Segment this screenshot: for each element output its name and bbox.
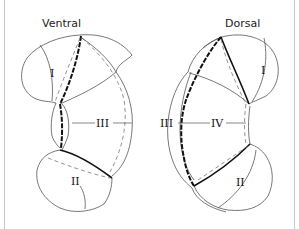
ventral-lateral-border bbox=[112, 72, 132, 176]
ventral-title: Ventral bbox=[42, 17, 81, 30]
ventral-upper-ridge bbox=[60, 72, 116, 104]
ventral-view: Ventral I II bbox=[22, 17, 133, 211]
ventral-label-III: III bbox=[96, 117, 109, 130]
ventral-label-I: I bbox=[50, 67, 54, 80]
ventral-upper-bold-dash bbox=[60, 36, 81, 104]
ventral-lateral-dashed bbox=[82, 38, 125, 172]
ventral-hilum-bold-dash bbox=[60, 104, 62, 148]
kidney-diagram: Ventral I II bbox=[0, 0, 299, 229]
dorsal-lower-dashed bbox=[198, 146, 248, 180]
dorsal-label-I: I bbox=[261, 64, 265, 77]
ventral-upper-dashed bbox=[55, 38, 80, 102]
ventral-label-II: II bbox=[71, 175, 80, 188]
dorsal-upper-ridge bbox=[189, 73, 249, 104]
ventral-upper-pole-cap bbox=[80, 35, 132, 72]
ventral-pole-II-divider bbox=[80, 186, 85, 209]
figure-frame: Ventral I II bbox=[0, 0, 299, 229]
dorsal-label-IV: IV bbox=[211, 117, 224, 130]
dorsal-central-bold bbox=[221, 37, 249, 104]
dorsal-label-II: II bbox=[236, 176, 245, 189]
dorsal-label-III: III bbox=[160, 117, 173, 130]
dorsal-hilum-dashed bbox=[245, 104, 247, 144]
dorsal-outer-bold-dash bbox=[181, 37, 221, 186]
dorsal-central-dashed bbox=[221, 39, 246, 104]
dorsal-lower-pole bbox=[194, 144, 272, 210]
ventral-lower-bold bbox=[60, 150, 112, 178]
dorsal-title: Dorsal bbox=[225, 17, 260, 30]
dorsal-hilum-outline bbox=[249, 106, 251, 144]
dorsal-view: Dorsal I II bbox=[160, 17, 278, 212]
ventral-hilum-outer bbox=[51, 103, 60, 148]
